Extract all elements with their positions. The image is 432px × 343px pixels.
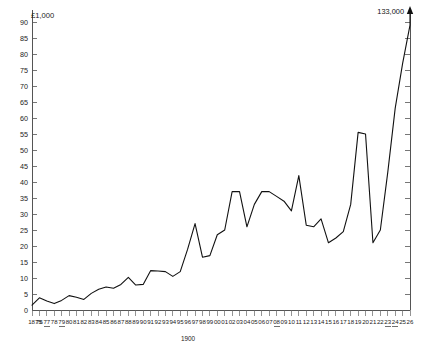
x-tick-label: 96 [184,318,191,325]
x-tick-label: 94 [169,318,176,325]
x-tick-label: 04 [244,318,251,325]
y-tick-label: 55 [20,130,28,139]
x-tick-label: 98 [199,318,206,325]
y-tick-label: 20 [20,242,28,251]
y-tick-label: 35 [20,194,28,203]
era-label-1900: 1900 [181,335,196,342]
y-tick-label: 10 [20,274,28,283]
x-tick-label: 86 [110,318,117,325]
y-tick-label: 65 [20,98,28,107]
x-tick-label: 81 [73,318,80,325]
x-tick-label: 07 [266,318,273,325]
x-tick-label: 21 [370,318,377,325]
y-tick-label: 45 [20,162,28,171]
x-tick-label: 88 [125,318,132,325]
x-tick-label: 80 [66,318,73,325]
x-tick-label: 93 [162,318,169,325]
x-tick-label: 97 [192,318,199,325]
x-tick-label: 26 [407,318,414,325]
y-tick-label: 40 [20,178,28,187]
x-tick-label: 16 [332,318,339,325]
x-tick-label: 08 [273,318,280,325]
x-tick-label: 13 [310,318,317,325]
x-tick-label: 01 [221,318,228,325]
x-tick-label: 14 [318,318,325,325]
x-tick-label: 82 [80,318,87,325]
x-tick-label: 22 [377,318,384,325]
right-axis [405,10,410,310]
x-tick-label: 10 [288,318,295,325]
x-tick-label: 83 [88,318,95,325]
x-tick-label: 89 [132,318,139,325]
y-tick-label: 0 [24,306,28,315]
x-tick-label: 77 [43,318,50,325]
x-tick-label: 06 [258,318,265,325]
y-tick-label: 75 [20,66,28,75]
y-tick-label: 80 [20,50,28,59]
x-tick-label: 85 [103,318,110,325]
x-tick-label: 91 [147,318,154,325]
x-tick-label: 23 [384,318,391,325]
peak-value-label: 133,000 [377,7,404,16]
y-tick-label: 15 [20,258,28,267]
x-tick-label: 79 [58,318,65,325]
x-tick-label: 84 [95,318,102,325]
y-tick-label: 25 [20,226,28,235]
x-tick-label: 95 [177,318,184,325]
x-tick-label: 09 [281,318,288,325]
x-tick-label: 76 [36,318,43,325]
x-tick-label: 87 [118,318,125,325]
x-tick-label: 25 [399,318,406,325]
chart-container: 051015202530354045505560657075808590 187… [0,0,432,343]
data-series-line [32,12,410,305]
x-tick-label: 99 [206,318,213,325]
y-tick-label: 50 [20,146,28,155]
y-tick-label: 5 [24,290,28,299]
x-tick-label: 18 [347,318,354,325]
x-tick-label: 92 [155,318,162,325]
up-arrow-icon [407,6,413,14]
x-tick-label: 00 [214,318,221,325]
x-tick-label: 02 [229,318,236,325]
x-tick-label: 15 [325,318,332,325]
y-axis-unit-label: £1,000 [31,11,54,20]
y-tick-label: 90 [20,18,28,27]
x-tick-label: 19 [355,318,362,325]
y-tick-label: 60 [20,114,28,123]
x-tick-label: 03 [236,318,243,325]
y-tick-label: 70 [20,82,28,91]
x-tick-label: 24 [392,318,399,325]
x-tick-label: 12 [303,318,310,325]
y-tick-label: 30 [20,210,28,219]
y-tick-label: 85 [20,34,28,43]
peak-annotation: 133,000 [377,6,413,16]
x-tick-label: 11 [296,318,303,325]
x-tick-label: 20 [362,318,369,325]
x-tick-label: 17 [340,318,347,325]
x-tick-label: 78 [51,318,58,325]
x-tick-label: 90 [140,318,147,325]
x-axis: 1875767778798081828384858687888990919293… [28,310,414,327]
line-chart: 051015202530354045505560657075808590 187… [0,0,432,343]
y-axis: 051015202530354045505560657075808590 [20,10,37,315]
x-tick-label: 05 [251,318,258,325]
